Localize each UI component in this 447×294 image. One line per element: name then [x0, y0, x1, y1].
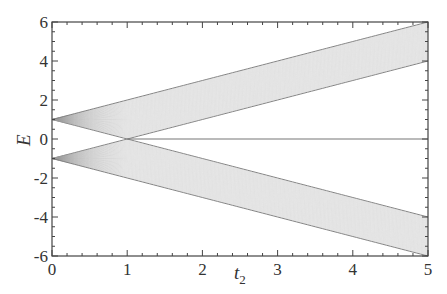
band-line [52, 159, 428, 240]
y-tick-label: -2 [34, 169, 48, 188]
x-tick-label: 2 [198, 260, 207, 279]
x-tick-label: 0 [48, 260, 57, 279]
x-axis-label: t2 [234, 262, 246, 287]
band-line [52, 39, 428, 120]
energy-spectrum-chart: 012345-6-4-20246 E t2 [0, 0, 447, 294]
y-tick-label: 0 [40, 130, 49, 149]
y-axis-label: E [13, 134, 34, 147]
x-tick-label: 5 [424, 260, 433, 279]
y-tick-label: 6 [40, 13, 49, 32]
y-tick-label: -6 [34, 247, 48, 266]
band-lines [52, 22, 428, 256]
y-tick-label: 4 [40, 52, 49, 71]
x-tick-label: 1 [123, 260, 132, 279]
x-tick-label: 3 [273, 260, 282, 279]
x-tick-label: 4 [349, 260, 358, 279]
y-tick-label: 2 [40, 91, 49, 110]
y-tick-label: -4 [34, 208, 49, 227]
